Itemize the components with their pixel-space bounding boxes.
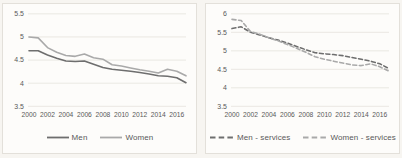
y-tick-label: 4.5 <box>14 56 24 63</box>
y-tick-label: 3.5 <box>217 103 227 110</box>
legend-marker-men-services-line <box>209 134 235 141</box>
legend-label-men-services: Men - services <box>237 133 290 142</box>
legend-total: Men Women <box>46 125 154 149</box>
legend-label-men: Men <box>72 133 88 142</box>
y-tick-label: 4 <box>20 80 24 87</box>
y-tick-label: 3.5 <box>14 103 24 110</box>
x-tick-label: 2004 <box>261 111 276 118</box>
legend-marker-men-line <box>46 134 70 141</box>
legend-item-men-services: Men - services <box>209 133 290 142</box>
legend-item-men: Men <box>46 133 88 142</box>
chart-panel-services: 3.544.555.562000200220042006200820102012… <box>205 3 400 154</box>
legend-marker-women-services-line <box>302 134 328 141</box>
y-tick-label: 4.5 <box>217 66 227 73</box>
y-tick-label: 5.5 <box>217 29 227 36</box>
x-tick-label: 2014 <box>354 111 369 118</box>
x-tick-label: 2002 <box>243 111 258 118</box>
x-tick-label: 2008 <box>95 111 110 118</box>
x-tick-label: 2006 <box>77 111 92 118</box>
series-line-women-services <box>232 19 389 71</box>
x-tick-label: 2008 <box>298 111 313 118</box>
chart-panel-total: 3.544.555.520002002200420062008201020122… <box>2 3 197 154</box>
legend-services: Men - services Women - services <box>209 125 396 149</box>
x-tick-label: 2012 <box>132 111 147 118</box>
x-tick-label: 2010 <box>114 111 129 118</box>
x-tick-label: 2010 <box>317 111 332 118</box>
x-tick-label: 2002 <box>40 111 55 118</box>
x-tick-label: 2000 <box>225 111 240 118</box>
x-tick-label: 2016 <box>169 111 184 118</box>
x-tick-label: 2000 <box>22 111 37 118</box>
y-tick-label: 4 <box>223 84 227 91</box>
x-tick-label: 2006 <box>280 111 295 118</box>
x-tick-label: 2016 <box>372 111 387 118</box>
two-chart-figure: 3.544.555.520002002200420062008201020122… <box>0 0 402 158</box>
line-chart-men-women: 3.544.555.520002002200420062008201020122… <box>3 4 196 126</box>
y-tick-label: 5 <box>223 47 227 54</box>
legend-item-women: Women <box>99 133 153 142</box>
line-chart-men-women-services: 3.544.555.562000200220042006200820102012… <box>206 4 399 126</box>
legend-marker-women-line <box>99 134 123 141</box>
legend-label-women-services: Women - services <box>330 133 395 142</box>
legend-label-women: Women <box>125 133 153 142</box>
y-tick-label: 5.5 <box>14 10 24 17</box>
y-tick-label: 5 <box>20 33 24 40</box>
legend-item-women-services: Women - services <box>302 133 395 142</box>
y-tick-label: 6 <box>223 10 227 17</box>
x-tick-label: 2014 <box>151 111 166 118</box>
x-tick-label: 2004 <box>58 111 73 118</box>
series-line-men <box>29 51 186 83</box>
x-tick-label: 2012 <box>335 111 350 118</box>
